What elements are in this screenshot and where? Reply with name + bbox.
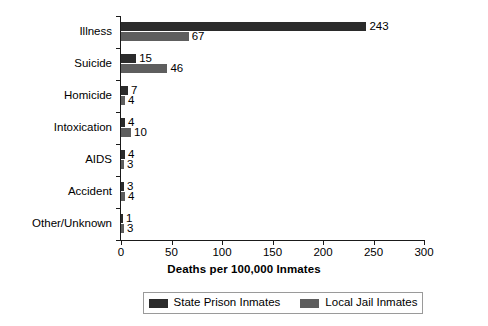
- bar-value-label: 15: [139, 53, 152, 65]
- bar-value-label: 3: [127, 159, 133, 171]
- bar: [121, 118, 125, 127]
- y-axis-tick: [116, 176, 121, 177]
- category-group: Accident34: [121, 176, 424, 208]
- y-axis-tick: [116, 80, 121, 81]
- x-axis-tick: [121, 240, 122, 245]
- y-axis-category-label: Illness: [79, 26, 112, 38]
- y-axis-tick: [116, 208, 121, 209]
- x-axis-tick: [222, 240, 223, 245]
- x-axis-tick-label: 300: [414, 247, 433, 259]
- bar: [121, 32, 189, 41]
- bar: [121, 128, 131, 137]
- legend-swatch-icon: [300, 299, 319, 308]
- category-group: Illness24367: [121, 16, 424, 48]
- x-axis-tick-label: 250: [364, 247, 383, 259]
- bar: [121, 160, 124, 169]
- bar-value-label: 4: [128, 191, 134, 203]
- plot-area: Illness24367Suicide1546Homicide74Intoxic…: [121, 16, 424, 240]
- y-axis-tick: [116, 16, 121, 17]
- y-axis-tick: [116, 48, 121, 49]
- bar: [121, 22, 366, 31]
- bar: [121, 224, 124, 233]
- x-axis-title: Deaths per 100,000 Inmates: [0, 263, 488, 275]
- y-axis-category-label: AIDS: [85, 154, 112, 166]
- chart-legend: State Prison InmatesLocal Jail Inmates: [143, 292, 423, 314]
- y-axis-category-label: Intoxication: [54, 122, 112, 134]
- x-axis-tick-label: 100: [212, 247, 231, 259]
- bar: [121, 86, 128, 95]
- bar: [121, 96, 125, 105]
- legend-entry: State Prison Inmates: [149, 297, 281, 309]
- bar-value-label: 10: [134, 127, 147, 139]
- x-axis-tick-label: 150: [263, 247, 282, 259]
- bar-value-label: 67: [192, 31, 205, 43]
- x-axis-tick: [172, 240, 173, 245]
- x-axis-tick: [273, 240, 274, 245]
- bar-value-label: 243: [369, 21, 388, 33]
- bar: [121, 192, 125, 201]
- bar: [121, 214, 123, 223]
- x-axis-tick: [323, 240, 324, 245]
- bar: [121, 54, 136, 63]
- category-group: Intoxication410: [121, 112, 424, 144]
- x-axis-tick-label: 0: [118, 247, 124, 259]
- y-axis-tick: [116, 144, 121, 145]
- bar: [121, 150, 125, 159]
- bar-value-label: 4: [128, 95, 134, 107]
- y-axis-category-label: Accident: [68, 186, 112, 198]
- category-group: Homicide74: [121, 80, 424, 112]
- y-axis-category-label: Homicide: [64, 90, 112, 102]
- legend-entry: Local Jail Inmates: [300, 297, 417, 309]
- bar: [121, 182, 124, 191]
- x-axis-tick: [424, 240, 425, 245]
- x-axis-tick-label: 200: [313, 247, 332, 259]
- x-axis-tick-label: 50: [165, 247, 178, 259]
- bar-chart: Illness24367Suicide1546Homicide74Intoxic…: [0, 0, 488, 326]
- x-axis-tick: [374, 240, 375, 245]
- y-axis-tick: [116, 112, 121, 113]
- category-group: Suicide1546: [121, 48, 424, 80]
- legend-label: Local Jail Inmates: [325, 297, 417, 309]
- y-axis-category-label: Other/Unknown: [32, 218, 112, 230]
- legend-label: State Prison Inmates: [174, 297, 281, 309]
- category-group: Other/Unknown13: [121, 208, 424, 240]
- category-group: AIDS43: [121, 144, 424, 176]
- bar-value-label: 46: [170, 63, 183, 75]
- y-axis-category-label: Suicide: [74, 58, 112, 70]
- bar: [121, 64, 167, 73]
- legend-swatch-icon: [149, 299, 168, 308]
- bar-value-label: 3: [127, 223, 133, 235]
